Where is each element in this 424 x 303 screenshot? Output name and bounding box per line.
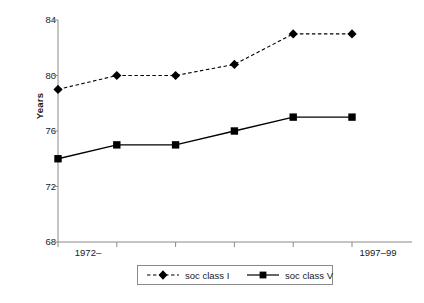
diamond-marker-icon — [146, 269, 180, 281]
legend-item-soc-class-1: soc class I — [146, 266, 229, 284]
life-expectancy-line-chart: Years 84 80 76 72 68 1972– 1997–99 soc c… — [0, 0, 424, 303]
x-axis-tick-marks — [58, 242, 352, 247]
y-axis-tick-marks — [53, 20, 58, 242]
square-marker-icon — [246, 269, 280, 281]
legend-item-soc-class-5: soc class V — [246, 266, 333, 284]
legend-label-soc-class-1: soc class I — [185, 270, 229, 281]
series-markers-group — [53, 29, 356, 162]
legend-label-soc-class-5: soc class V — [285, 270, 333, 281]
series-lines-group — [58, 34, 352, 159]
plot-area — [0, 0, 424, 303]
chart-legend: soc class I soc class V — [137, 265, 333, 285]
